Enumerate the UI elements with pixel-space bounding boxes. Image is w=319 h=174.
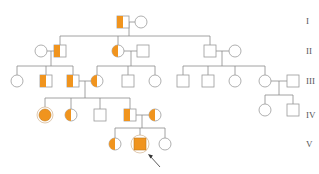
generation-label-ii: II bbox=[306, 46, 312, 56]
generation-label-i: I bbox=[306, 16, 309, 26]
individual-I-1[interactable] bbox=[117, 16, 129, 28]
individual-IV-4[interactable] bbox=[124, 109, 136, 121]
individual-II-4[interactable] bbox=[137, 45, 149, 57]
individual-III-1[interactable] bbox=[11, 75, 23, 87]
individual-V-3[interactable] bbox=[159, 138, 171, 150]
individual-II-6[interactable] bbox=[229, 45, 241, 57]
individual-IV-1[interactable] bbox=[37, 107, 53, 123]
individual-III-6[interactable] bbox=[149, 75, 161, 87]
generation-label-v: V bbox=[306, 139, 313, 149]
individual-III-2[interactable] bbox=[40, 75, 52, 87]
individual-II-1[interactable] bbox=[35, 45, 47, 57]
individual-IV-5[interactable] bbox=[149, 109, 161, 121]
generation-label-iv: IV bbox=[306, 110, 316, 120]
individual-III-11[interactable] bbox=[287, 75, 299, 87]
proband-arrow-icon bbox=[148, 154, 160, 167]
individual-V-1[interactable] bbox=[109, 138, 121, 150]
individual-III-7[interactable] bbox=[177, 75, 189, 87]
individual-IV-7[interactable] bbox=[287, 104, 299, 116]
individual-II-3[interactable] bbox=[112, 45, 124, 57]
individual-III-3[interactable] bbox=[67, 75, 79, 87]
individual-II-2[interactable] bbox=[54, 45, 66, 57]
individual-III-8[interactable] bbox=[202, 75, 214, 87]
individual-III-9[interactable] bbox=[229, 75, 241, 87]
individual-IV-2[interactable] bbox=[65, 109, 77, 121]
individual-III-5[interactable] bbox=[122, 75, 134, 87]
individual-I-2[interactable] bbox=[135, 16, 147, 28]
individual-IV-3[interactable] bbox=[94, 109, 106, 121]
individual-III-4[interactable] bbox=[91, 75, 103, 87]
individual-II-5[interactable] bbox=[204, 45, 216, 57]
individual-V-2-proband[interactable] bbox=[131, 135, 149, 153]
pedigree-chart bbox=[0, 0, 319, 174]
generation-label-iii: III bbox=[306, 76, 315, 86]
individual-III-10[interactable] bbox=[259, 75, 271, 87]
individual-IV-6[interactable] bbox=[259, 104, 271, 116]
